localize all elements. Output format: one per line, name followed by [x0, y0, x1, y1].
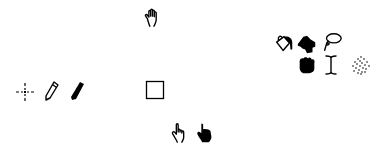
pencil-filled-icon	[67, 80, 87, 102]
i-beam-icon	[322, 54, 340, 76]
lasso-icon	[320, 31, 344, 53]
spray-dots-icon	[350, 54, 372, 76]
closed-fist-icon	[296, 54, 318, 76]
pencil-outline-icon	[42, 80, 62, 102]
filled-hand-brush-icon	[296, 33, 318, 55]
open-hand-icon	[142, 7, 164, 29]
crosshair-icon	[14, 81, 36, 103]
pointing-hand-outline-icon	[169, 122, 191, 144]
square-outline-icon	[145, 80, 165, 100]
paint-bucket-icon	[273, 33, 295, 55]
pointing-hand-filled-icon	[194, 122, 216, 144]
